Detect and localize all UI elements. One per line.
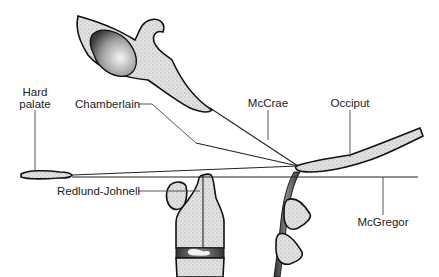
craniovertebral-diagram: Hard palate Chamberlain McCrae Occiput M… <box>0 0 439 277</box>
label-hard-palate-2: palate <box>19 98 50 110</box>
occiput <box>296 128 423 172</box>
chamberlain-line <box>72 166 298 175</box>
mccrae-line <box>210 108 298 166</box>
hard-palate <box>21 171 72 179</box>
posterior-structures <box>274 172 310 277</box>
label-redlund-johnell: Redlund-Johnell <box>57 185 140 197</box>
label-occiput: Occiput <box>331 97 371 109</box>
label-mcgregor: McGregor <box>357 216 408 228</box>
label-mccrae: McCrae <box>248 97 288 109</box>
label-hard-palate-1: Hard <box>23 86 48 98</box>
label-chamberlain: Chamberlain <box>75 98 140 110</box>
